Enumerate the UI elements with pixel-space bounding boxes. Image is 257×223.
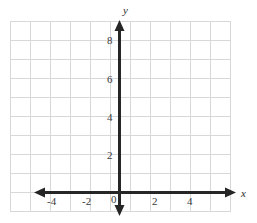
x-axis-arrow-left bbox=[34, 188, 45, 198]
y-tick-label-6: 6 bbox=[107, 74, 113, 85]
y-axis bbox=[115, 20, 125, 216]
x-axis-label: x bbox=[241, 188, 246, 199]
y-tick-label-2: 2 bbox=[107, 150, 113, 161]
y-tick-label-4: 4 bbox=[107, 112, 113, 123]
origin-label-0: 0 bbox=[111, 194, 117, 205]
x-tick-label-2: 2 bbox=[152, 196, 158, 207]
x-tick-label--4: -4 bbox=[47, 196, 56, 207]
y-axis-arrow-down bbox=[115, 205, 125, 216]
y-axis-label: y bbox=[123, 5, 128, 16]
coordinate-plane-svg bbox=[0, 0, 257, 223]
x-axis bbox=[34, 188, 236, 198]
y-tick-label-8: 8 bbox=[107, 35, 113, 46]
x-tick-label--2: -2 bbox=[82, 196, 91, 207]
coordinate-plane-figure: -4 -2 2 4 0 2 4 6 8 y x bbox=[0, 0, 257, 223]
x-tick-label-4: 4 bbox=[187, 196, 193, 207]
